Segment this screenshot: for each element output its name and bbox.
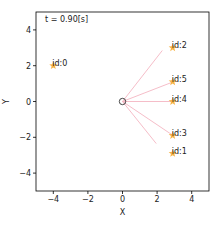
y-tick-label: −4	[19, 169, 31, 178]
y-tick-label: −2	[19, 133, 31, 142]
x-tick-label: 4	[189, 195, 194, 204]
target-label: id:5	[172, 75, 187, 84]
y-tick-label: 0	[26, 98, 31, 107]
target-points: id:0id:1id:2id:3id:4id:5	[49, 41, 186, 157]
target-label: id:3	[172, 129, 187, 138]
x-tick-label: 0	[120, 195, 125, 204]
sensor-rays	[123, 50, 172, 143]
x-tick-label: 2	[155, 195, 160, 204]
ray-line	[123, 102, 157, 144]
y-axis-ticks: −4−2024	[19, 26, 36, 178]
time-annotation: t = 0.90[s]	[45, 15, 88, 24]
chart: id:0id:1id:2id:3id:4id:5 −4−2024 −4−2024…	[0, 0, 218, 226]
y-axis-label: Y	[2, 99, 11, 105]
x-axis-ticks: −4−2024	[47, 191, 194, 204]
y-tick-label: 2	[26, 62, 31, 71]
x-axis-label: X	[120, 208, 126, 217]
ray-line	[123, 102, 172, 135]
target-label: id:1	[172, 147, 187, 156]
target-label: id:0	[52, 59, 67, 68]
target-label: id:4	[172, 95, 187, 104]
scatter-plot: id:0id:1id:2id:3id:4id:5 −4−2024 −4−2024…	[0, 0, 218, 226]
y-tick-label: 4	[26, 26, 31, 35]
x-tick-label: −4	[47, 195, 59, 204]
target-label: id:2	[172, 41, 187, 50]
x-tick-label: −2	[82, 195, 94, 204]
